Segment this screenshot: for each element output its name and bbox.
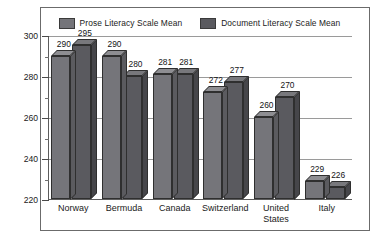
bar-value-label: 281	[169, 57, 203, 67]
legend-label-document: Document Literacy Scale Mean	[221, 18, 340, 28]
bar-side-face	[172, 68, 178, 199]
y-axis-label: 220	[0, 195, 38, 205]
bar	[203, 92, 222, 199]
bar	[153, 74, 172, 199]
bar-value-label: 277	[220, 65, 254, 75]
bar	[254, 117, 273, 199]
bar-front-face	[102, 56, 121, 200]
bar	[305, 181, 324, 199]
category-label: Italy	[295, 203, 358, 214]
bar-front-face	[203, 92, 222, 199]
bar-value-label: 226	[321, 170, 355, 180]
y-tick-major	[42, 200, 49, 201]
bar-side-face	[193, 68, 199, 199]
y-tick-minor	[45, 139, 49, 140]
y-tick-minor	[45, 57, 49, 58]
bar-side-face	[294, 91, 300, 200]
bar-side-face	[273, 111, 279, 199]
bar-side-face	[222, 86, 228, 199]
legend-swatch-prose	[59, 18, 75, 29]
y-tick-minor	[45, 180, 49, 181]
y-axis-label: 260	[0, 113, 38, 123]
y-tick-minor	[45, 98, 49, 99]
plot-area: 290295290280281281272277260270229226	[48, 36, 352, 200]
bar-front-face	[153, 74, 172, 199]
bar-value-label: 272	[199, 75, 233, 85]
bar-value-label: 270	[271, 80, 305, 90]
legend-entry-document: Document Literacy Scale Mean	[200, 18, 340, 29]
y-axis-label: 300	[0, 31, 38, 41]
bar	[51, 56, 70, 200]
bar-side-face	[91, 39, 97, 199]
y-tick-major	[42, 118, 49, 119]
bar-value-label: 290	[47, 39, 81, 49]
bar-front-face	[51, 56, 70, 200]
bar-value-label: 290	[98, 39, 132, 49]
bar-front-face	[305, 181, 324, 199]
bar-side-face	[121, 50, 127, 200]
y-tick-major	[42, 159, 49, 160]
y-axis-label: 280	[0, 72, 38, 82]
legend-label-prose: Prose Literacy Scale Mean	[80, 18, 183, 28]
bar-side-face	[243, 76, 249, 199]
bar-front-face	[254, 117, 273, 199]
bar-value-label: 260	[250, 100, 284, 110]
bar-side-face	[70, 50, 76, 200]
legend-swatch-document	[200, 18, 216, 29]
bar-side-face	[142, 70, 148, 199]
bar	[102, 56, 121, 200]
legend-entry-prose: Prose Literacy Scale Mean	[59, 18, 183, 29]
x-axis-line	[48, 199, 352, 200]
bar-value-label: 295	[68, 28, 102, 38]
y-tick-major	[42, 36, 49, 37]
y-tick-major	[42, 77, 49, 78]
y-axis-label: 240	[0, 154, 38, 164]
